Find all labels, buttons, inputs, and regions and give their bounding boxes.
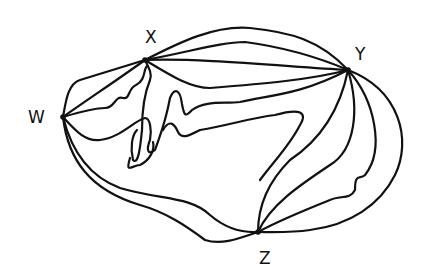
edge-y-z-2: [258, 70, 354, 232]
label-y: Y: [354, 44, 366, 64]
label-w: W: [28, 107, 45, 127]
vertex-y: [345, 67, 351, 73]
edge-y-z-1: [258, 70, 348, 232]
edge-w-y-wiggly: [63, 70, 348, 152]
edge-x-y-3: [145, 60, 348, 70]
label-z: Z: [259, 248, 271, 268]
label-x: X: [145, 27, 157, 47]
vertex-z: [255, 229, 261, 235]
graph-diagram: W X Y Z: [0, 0, 425, 276]
vertex-x: [142, 57, 148, 63]
vertex-w: [60, 114, 66, 120]
